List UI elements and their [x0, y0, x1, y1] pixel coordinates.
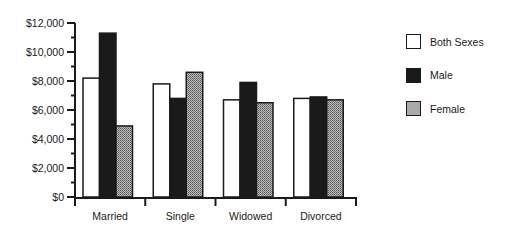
- legend-item-male: Male: [406, 68, 484, 83]
- x-category-label: Widowed: [229, 210, 272, 222]
- y-tick-label: $4,000: [32, 133, 64, 145]
- legend-label: Both Sexes: [430, 36, 484, 48]
- legend-swatch-both-sexes: [406, 34, 421, 49]
- x-category-label: Divorced: [300, 210, 342, 222]
- legend-item-female: Female: [406, 101, 484, 116]
- bar-married-both-sexes: [83, 78, 100, 197]
- bar-single-male: [170, 98, 187, 197]
- y-tick-label: $2,000: [32, 162, 64, 174]
- bar-single-female: [186, 72, 203, 197]
- bar-divorced-male: [310, 97, 327, 197]
- y-tick-label: $6,000: [32, 104, 64, 116]
- y-tick-label: $8,000: [32, 75, 64, 87]
- legend-label: Female: [430, 103, 465, 115]
- chart-legend: Both Sexes Male Female: [406, 34, 484, 135]
- bar-married-female: [116, 126, 133, 197]
- y-tick-label: $0: [52, 191, 64, 203]
- legend-swatch-female: [406, 101, 421, 116]
- y-tick-label: $10,000: [26, 46, 64, 58]
- x-category-label: Single: [166, 210, 195, 222]
- legend-swatch-male: [406, 68, 421, 83]
- bar-widowed-both-sexes: [224, 100, 241, 197]
- bar-married-male: [100, 33, 117, 197]
- bar-widowed-female: [257, 103, 274, 197]
- bar-divorced-both-sexes: [294, 98, 311, 197]
- bar-divorced-female: [327, 100, 344, 197]
- legend-label: Male: [430, 69, 453, 81]
- chart-bars: [83, 33, 343, 197]
- bar-single-both-sexes: [153, 84, 170, 197]
- y-tick-label: $12,000: [26, 17, 64, 29]
- legend-item-both-sexes: Both Sexes: [406, 34, 484, 49]
- x-category-label: Married: [92, 210, 128, 222]
- bar-widowed-male: [240, 82, 257, 197]
